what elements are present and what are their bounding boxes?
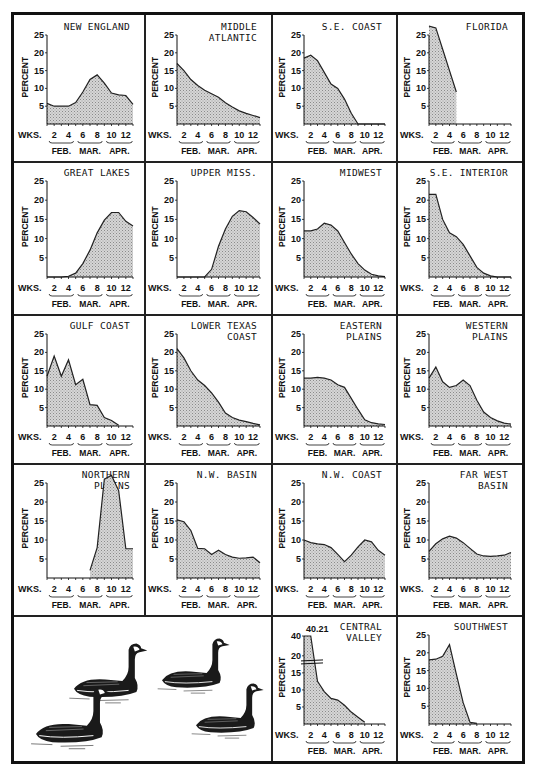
y-tick-label: 10 [291,384,301,394]
chart-title: PLAINS [346,331,382,342]
x-tick-label: 12 [499,432,509,442]
y-tick-label: 5 [39,253,44,263]
chart-panel-gulf-coast: GULF COAST510152025PERCENTWKS.24681012FE… [14,314,144,463]
x-tick-label: 6 [335,432,340,442]
month-label: FEB. [52,299,71,309]
y-tick-label: 25 [416,30,426,40]
month-label: MAR. [459,146,481,156]
y-tick-label: 20 [34,497,44,507]
month-label: APR. [362,448,382,458]
y-axis-label: PERCENT [20,56,30,97]
month-label: MAR. [79,146,101,156]
y-tick-label: 15 [164,66,174,76]
x-tick-label: 8 [349,730,354,740]
y-axis-label: PERCENT [402,507,412,548]
month-label: APR. [488,448,508,458]
month-label: FEB. [308,299,327,309]
y-tick-label: 20 [291,651,301,661]
month-label: APR. [488,746,508,756]
y-axis-label: PERCENT [150,357,160,398]
month-label: APR. [362,600,382,610]
y-tick-label: 20 [34,347,44,357]
area-chart: SOUTHWEST510152025PERCENTWKS.24681012FEB… [396,615,522,761]
y-tick-label: 5 [296,702,301,712]
x-tick-label: 10 [106,432,116,442]
y-tick-label: 20 [416,648,426,658]
x-tick-label: 12 [499,130,509,140]
x-tick-label: 12 [499,730,509,740]
chart-panel-southwest: SOUTHWEST510152025PERCENTWKS.24681012FEB… [396,615,522,761]
chart-title: UPPER MISS. [191,167,257,178]
chart-panel-far-west-basin: FAR WESTBASIN510152025PERCENTWKS.2468101… [396,463,522,615]
chart-title: FAR WEST [460,469,508,480]
month-label: FEB. [433,146,452,156]
month-label: MAR. [208,448,230,458]
x-tick-label: 8 [223,130,228,140]
area-chart: GULF COAST510152025PERCENTWKS.24681012FE… [14,314,144,463]
y-tick-label: 20 [291,347,301,357]
y-tick-label: 15 [164,214,174,224]
area-chart: EASTERNPLAINS510152025PERCENTWKS.2468101… [271,314,396,463]
month-label: MAR. [459,746,481,756]
chart-panel-s-e-coast: S.E. COAST510152025PERCENTWKS.24681012FE… [271,15,396,161]
x-axis-label: WKS. [275,730,299,740]
x-tick-label: 6 [335,584,340,594]
month-label: MAR. [334,448,356,458]
chart-title: S.E. COAST [322,21,382,32]
month-label: MAR. [79,448,101,458]
x-tick-label: 2 [181,283,186,293]
y-tick-label: 5 [421,701,426,711]
y-tick-label: 15 [416,214,426,224]
y-tick-label: 25 [34,329,44,339]
x-tick-label: 12 [248,584,258,594]
x-tick-label: 2 [433,130,438,140]
y-tick-label: 15 [291,366,301,376]
month-label: MAR. [208,146,230,156]
y-tick-label: 20 [164,48,174,58]
chart-panel-midwest: MIDWEST510152025PERCENTWKS.24681012FEB.M… [271,161,396,314]
y-tick-label: 5 [421,554,426,564]
chart-title: COAST [227,331,257,342]
y-axis-label: PERCENT [150,56,160,97]
chart-title: MIDDLE [221,21,257,32]
x-tick-label: 4 [66,584,71,594]
area-chart: N.W. COAST510152025PERCENTWKS.24681012FE… [271,463,396,615]
y-axis-label: PERCENT [20,206,30,247]
chart-title: BASIN [478,480,508,491]
x-tick-label: 12 [121,130,131,140]
x-tick-label: 4 [66,130,71,140]
y-axis-label: PERCENT [150,206,160,247]
area-chart: FLORIDA510152025PERCENTWKS.24681012FEB.M… [396,15,522,161]
y-tick-label: 15 [291,668,301,678]
x-axis-label: WKS. [400,432,424,442]
x-tick-label: 8 [474,432,479,442]
y-tick-label: 20 [291,497,301,507]
y-tick-label: 5 [169,403,174,413]
x-tick-label: 12 [121,584,131,594]
month-label: APR. [362,146,382,156]
y-tick-label: 20 [291,195,301,205]
y-tick-label: 5 [39,403,44,413]
y-tick-label: 15 [416,516,426,526]
x-tick-label: 10 [485,730,495,740]
month-label: APR. [488,146,508,156]
chart-title: N.W. COAST [322,469,382,480]
x-tick-label: 4 [195,584,200,594]
area-chart: MIDWEST510152025PERCENTWKS.24681012FEB.M… [271,161,396,314]
y-tick-label: 15 [34,516,44,526]
x-tick-label: 10 [234,584,244,594]
chart-panel-great-lakes: GREAT LAKES510152025PERCENTWKS.24681012F… [14,161,144,314]
month-label: MAR. [334,600,356,610]
x-tick-label: 6 [209,432,214,442]
month-label: APR. [237,448,257,458]
y-tick-label: 5 [421,403,426,413]
x-axis-label: WKS. [18,432,42,442]
y-axis-label: PERCENT [277,656,287,697]
area-chart: WESTERNPLAINS510152025PERCENTWKS.2468101… [396,314,522,463]
x-tick-label: 8 [95,432,100,442]
x-tick-label: 12 [373,730,383,740]
x-tick-label: 12 [373,130,383,140]
y-tick-label: 20 [164,497,174,507]
y-tick-label: 25 [164,478,174,488]
x-tick-label: 2 [52,130,57,140]
